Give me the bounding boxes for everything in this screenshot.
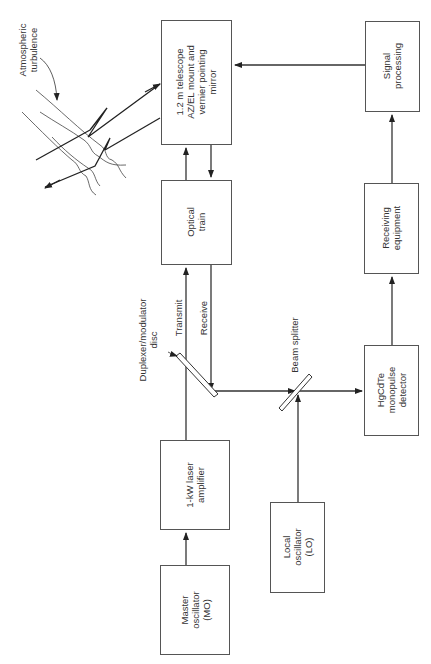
telescope-label: 1.2 m telescope AZ/EL mount and vernier … (174, 45, 218, 119)
transmit-label: Transmit (173, 300, 184, 337)
duplexer-disc-icon (176, 353, 218, 397)
beam-splitter-icon (279, 374, 312, 411)
optical-train-label: Optical train (185, 207, 207, 237)
detector-label: HgCdTe monopulse detector (375, 367, 408, 413)
receiving-equipment-label: Receiving equipment (380, 206, 402, 250)
diagram-canvas: 1.2 m telescope AZ/EL mount and vernier … (0, 0, 431, 664)
beam-splitter-label: Beam splitter (289, 317, 300, 372)
atmospheric-turbulence-label: Atmospheric turbulence (17, 24, 39, 77)
beam-paths-icon (36, 84, 160, 187)
turbulence-lines-icon (22, 90, 126, 195)
signal-processing-label: Signal processing (381, 43, 403, 89)
local-oscillator-label: Local oscillator (LO) (281, 528, 314, 566)
receive-label: Receive (198, 301, 209, 335)
duplexer-label: Duplexer/modulator disc (137, 299, 159, 382)
master-oscillator-label: Master oscillator (MO) (179, 591, 212, 629)
laser-amplifier-label: 1-kW laser amplifier (184, 462, 206, 507)
